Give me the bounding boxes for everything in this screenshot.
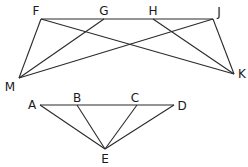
geometry-diagram: FGHJMK ABCDE: [0, 0, 248, 167]
segment-JK: [213, 19, 234, 74]
segment-AE: [40, 105, 105, 149]
vertex-label-F: F: [33, 4, 40, 18]
vertex-label-H: H: [148, 4, 157, 18]
segment-BE: [77, 105, 105, 149]
vertex-label-M: M: [5, 80, 15, 94]
vertex-label-C: C: [131, 91, 139, 105]
top-figure-quadrilateral: FGHJMK: [5, 4, 247, 94]
bottom-figure-triangle: ABCDE: [28, 91, 187, 166]
vertex-label-D: D: [177, 99, 186, 113]
segment-DE: [105, 105, 174, 149]
segment-FK: [41, 19, 234, 74]
vertex-label-B: B: [73, 91, 81, 105]
segment-CE: [105, 105, 137, 149]
segment-GM: [19, 19, 104, 78]
segment-FM: [19, 19, 41, 78]
segment-HK: [153, 19, 234, 74]
vertex-label-E: E: [101, 152, 109, 166]
vertex-label-A: A: [28, 98, 37, 112]
vertex-label-J: J: [216, 5, 221, 19]
vertex-label-K: K: [238, 67, 247, 81]
vertex-label-G: G: [99, 4, 108, 18]
segment-JM: [19, 19, 213, 78]
